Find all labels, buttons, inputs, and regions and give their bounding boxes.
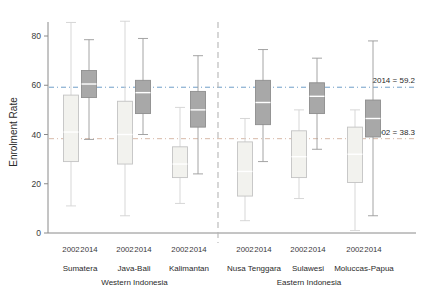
x-year-label: 2002	[171, 245, 188, 254]
x-category-label: Nusa Tenggara	[227, 264, 282, 273]
boxplot-chart: 020406080Enrolment Rate2014 = 59.22002 =…	[0, 0, 425, 296]
box-sulawesi-2014	[310, 58, 325, 149]
x-year-label: 2014	[364, 245, 382, 254]
box-sumatera-2002	[64, 22, 79, 205]
x-year-label: 2014	[134, 245, 152, 254]
x-category-label: Kalimantan	[169, 264, 209, 273]
reference-line-label: 2014 = 59.2	[373, 76, 416, 85]
box-moluccas-papua-2014	[366, 41, 381, 216]
chart-canvas: 020406080Enrolment Rate2014 = 59.22002 =…	[0, 0, 425, 296]
x-year-label: 2014	[80, 245, 98, 254]
box-java-bali-2014	[136, 38, 151, 134]
x-year-label: 2002	[346, 245, 363, 254]
x-year-label: 2002	[236, 245, 253, 254]
x-category-label: Java-Bali	[118, 264, 151, 273]
y-tick-label: 60	[32, 80, 42, 90]
box-sulawesi-2002	[292, 110, 307, 199]
x-year-label: 2002	[116, 245, 133, 254]
box-rect	[238, 142, 253, 196]
box-kalimantan-2002	[173, 107, 188, 203]
box-nusa-tenggara-2014	[256, 50, 271, 162]
x-year-label: 2014	[308, 245, 326, 254]
x-year-label: 2002	[62, 245, 79, 254]
box-sumatera-2014	[82, 40, 97, 140]
x-category-label: Sulawesi	[292, 264, 324, 273]
box-moluccas-papua-2002	[348, 110, 363, 231]
x-category-label: Moluccas-Papua	[334, 264, 394, 273]
y-tick-label: 20	[32, 179, 42, 189]
box-rect	[64, 95, 79, 161]
x-year-label: 2002	[290, 245, 307, 254]
box-rect	[136, 80, 151, 113]
y-tick-label: 0	[36, 228, 41, 238]
box-kalimantan-2014	[191, 56, 206, 174]
x-year-label: 2014	[189, 245, 207, 254]
y-tick-label: 80	[32, 31, 42, 41]
box-rect	[173, 147, 188, 178]
box-rect	[118, 101, 133, 164]
region-label-eastern: Eastern Indonesia	[277, 278, 342, 287]
x-category-label: Sumatera	[63, 264, 98, 273]
box-java-bali-2002	[118, 21, 133, 216]
y-axis-title: Enrolment Rate	[8, 97, 19, 167]
y-tick-label: 40	[32, 130, 42, 140]
box-nusa-tenggara-2002	[238, 118, 253, 220]
box-rect	[310, 83, 325, 114]
region-label-western: Western Indonesia	[101, 278, 168, 287]
box-rect	[292, 131, 307, 178]
x-year-label: 2014	[254, 245, 272, 254]
